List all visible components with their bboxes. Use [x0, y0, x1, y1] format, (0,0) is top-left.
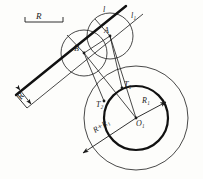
- segment-b-to-t2: [84, 53, 104, 101]
- label-dim-R-top: R: [35, 11, 42, 21]
- line-l: [16, 6, 126, 95]
- label-line-l: l: [103, 5, 106, 14]
- technical-drawing-figure: R R l l₁ A B T₁ T₂ R₁ R+R₁ O₁: [0, 0, 203, 179]
- label-line-l1: l₁: [131, 11, 136, 20]
- segment-o1-a: [110, 36, 136, 118]
- label-point-T1: T₁: [124, 80, 131, 89]
- radius-arrow-r1: [136, 102, 166, 118]
- segment-a-b: [84, 36, 110, 53]
- segment-a-to-t1: [110, 36, 122, 88]
- label-point-T2: T₂: [96, 100, 103, 109]
- label-center-O1: O₁: [136, 119, 145, 128]
- point-marker-a: [109, 35, 112, 38]
- construction-diagram: R R l l₁ A B T₁ T₂ R₁ R+R₁ O₁: [0, 0, 203, 179]
- label-point-A: A: [103, 26, 109, 35]
- label-point-B: B: [74, 44, 79, 53]
- label-radius-R1: R₁: [141, 96, 150, 105]
- tangency-point-t1: [121, 87, 124, 90]
- line-l1: [27, 14, 143, 108]
